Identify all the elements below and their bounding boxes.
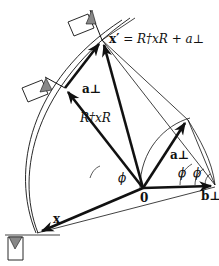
x-label: x — [53, 213, 60, 225]
a-perp-right-label: a⊥ — [170, 149, 189, 161]
flag-bottom — [8, 237, 23, 260]
flag-top — [68, 10, 102, 40]
rotated-x-label: R†xR — [80, 112, 111, 124]
a-perp-upper-label: a⊥ — [82, 83, 101, 95]
phi-arcs — [90, 164, 210, 185]
origin-label: 0 — [140, 192, 148, 204]
phi-mid-label: ϕ — [178, 167, 186, 179]
phi-right-label: ϕ — [193, 167, 201, 179]
b-perp-label: b⊥ — [201, 190, 219, 202]
phi-left-label: ϕ — [118, 172, 126, 184]
x-prime-equation: x′ = R†xR + a⊥ — [109, 33, 204, 45]
vector-b-perp — [143, 186, 211, 188]
x-prime-symbol: x′ — [109, 32, 119, 46]
equation-rhs: = R†xR + a⊥ — [123, 32, 204, 46]
vector-rotated-x — [68, 92, 143, 188]
